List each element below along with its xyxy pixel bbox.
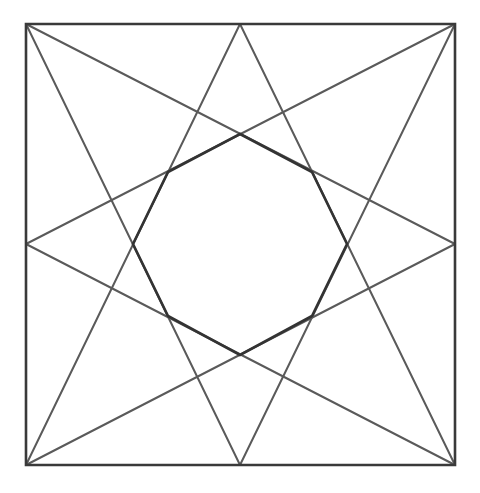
diagram-canvas: Eight-pointed star inscribed in a square… [0, 0, 480, 493]
geometric-star-diagram [0, 0, 480, 493]
background [0, 0, 480, 493]
